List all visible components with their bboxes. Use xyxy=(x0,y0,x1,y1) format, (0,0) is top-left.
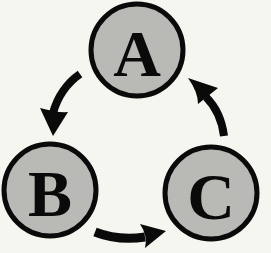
node-b-label: B xyxy=(28,157,72,230)
node-a-label: A xyxy=(113,17,161,90)
node-a: A xyxy=(91,4,183,96)
node-c: C xyxy=(165,147,257,239)
arrow-b-to-c xyxy=(95,224,166,248)
node-c-label: C xyxy=(187,160,235,233)
arrow-a-to-b xyxy=(40,74,80,136)
node-b: B xyxy=(4,144,96,236)
cycle-diagram: A B C xyxy=(0,0,271,253)
arrow-c-to-a xyxy=(188,78,224,136)
